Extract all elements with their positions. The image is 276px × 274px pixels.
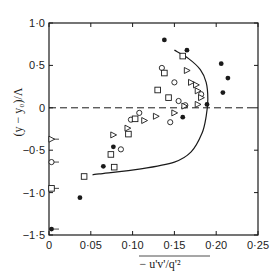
open-triangle-marker bbox=[184, 67, 190, 73]
y-tick-label: 0 bbox=[39, 102, 45, 114]
open-triangle-marker bbox=[195, 101, 201, 107]
filled-circle-marker bbox=[185, 48, 190, 53]
open-circle-marker bbox=[172, 80, 177, 85]
filled-circle-marker bbox=[162, 38, 167, 43]
x-tick-label: 0·10 bbox=[122, 239, 144, 251]
x-tick-label: 0·05 bbox=[80, 239, 102, 251]
x-axis-title: − u'v'/q'² bbox=[139, 257, 181, 271]
chart: 00·050·100·150·200·251·00·50−0·5−1·0−1·5… bbox=[0, 0, 276, 274]
open-square-marker bbox=[49, 186, 55, 192]
open-square-marker bbox=[155, 87, 161, 93]
y-tick-label: −1·0 bbox=[23, 187, 45, 199]
open-square-marker bbox=[132, 116, 138, 122]
open-triangle-marker bbox=[194, 82, 200, 88]
x-tick-label: 0·15 bbox=[163, 239, 185, 251]
tick-labels: 00·050·100·150·200·251·00·50−0·5−1·0−1·5 bbox=[23, 17, 269, 251]
open-triangle-marker bbox=[125, 125, 131, 131]
open-circle-marker bbox=[159, 65, 164, 70]
open-triangle-marker bbox=[49, 136, 55, 142]
filled-circle-marker bbox=[220, 90, 225, 95]
open-square-marker bbox=[108, 152, 114, 158]
x-tick-label: 0·20 bbox=[205, 239, 227, 251]
open-circle-marker bbox=[168, 120, 173, 125]
filled-circle-marker bbox=[219, 61, 224, 66]
open-circle-marker bbox=[118, 147, 123, 152]
filled-circle-marker bbox=[78, 195, 83, 200]
open-circle-marker bbox=[49, 159, 54, 164]
x-tick-label: 0 bbox=[46, 239, 52, 251]
plot-border bbox=[49, 23, 258, 235]
y-axis-title: (y − y₀)/Λ bbox=[11, 87, 25, 136]
y-tick-label: 0·5 bbox=[29, 59, 45, 71]
filled-circle-marker bbox=[49, 227, 54, 232]
filled-circle-marker bbox=[180, 115, 185, 120]
y-tick-label: 1·0 bbox=[29, 17, 45, 29]
filled-circle-marker bbox=[205, 102, 210, 107]
y-tick-label: −0·5 bbox=[23, 144, 45, 156]
filled-circle-marker bbox=[111, 144, 116, 149]
y-tick-label: −1·5 bbox=[23, 229, 45, 241]
open-triangle-marker bbox=[111, 132, 117, 138]
x-tick-label: 0·25 bbox=[247, 239, 269, 251]
open-circle-marker bbox=[137, 110, 142, 115]
open-square-marker bbox=[166, 95, 172, 101]
data-points bbox=[49, 38, 231, 232]
open-circle-marker bbox=[176, 98, 181, 103]
open-square-marker bbox=[81, 174, 87, 180]
plot-frame bbox=[49, 23, 258, 235]
filled-circle-marker bbox=[101, 164, 106, 169]
open-triangle-marker bbox=[142, 118, 148, 124]
filled-circle-marker bbox=[226, 76, 231, 81]
open-square-marker bbox=[162, 70, 168, 76]
open-triangle-marker bbox=[172, 110, 178, 116]
open-square-marker bbox=[180, 53, 186, 59]
axis-ticks bbox=[49, 23, 258, 235]
open-triangle-marker bbox=[153, 113, 159, 119]
open-square-marker bbox=[111, 164, 117, 170]
open-square-marker bbox=[126, 131, 132, 137]
